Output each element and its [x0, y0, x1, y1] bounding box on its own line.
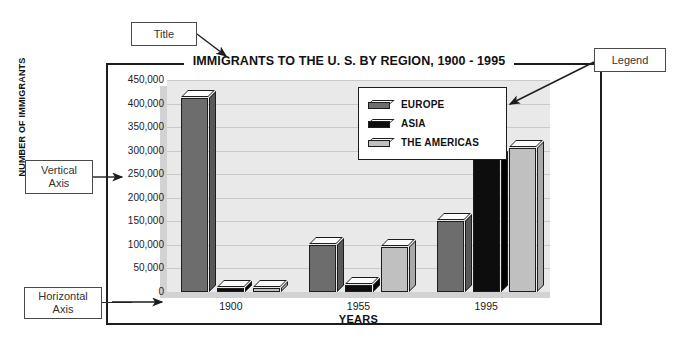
legend-item-the-americas: THE AMERICAS [367, 133, 498, 152]
chart-frame-top-left-rule [106, 63, 184, 65]
bar-the-americas-1900 [253, 288, 280, 292]
legend-label: EUROPE [401, 99, 444, 110]
y-axis-tick-label: 200,000 [110, 192, 164, 203]
bar-side [409, 240, 416, 292]
bar-side [501, 151, 508, 292]
leader-line-horizontal-axis [102, 302, 132, 303]
legend-swatch-icon [368, 119, 392, 128]
x-axis-title: YEARS [167, 313, 550, 325]
bar-the-americas-1995 [509, 148, 536, 292]
y-axis-tick-labels: 450,000400,000350,000300,000250,000200,0… [108, 80, 164, 292]
bar-the-americas-1955 [381, 247, 408, 292]
chart-title: IMMIGRANTS TO THE U. S. BY REGION, 1900 … [184, 54, 514, 68]
x-axis-tick-label: 1995 [474, 300, 497, 312]
bar-side [337, 238, 344, 292]
bar-front [509, 148, 536, 292]
callout-legend: Legend [594, 48, 666, 72]
bar-asia-1995 [473, 158, 500, 292]
legend-item-asia: ASIA [367, 114, 498, 133]
y-axis-tick-label: 300,000 [110, 145, 164, 156]
bar-side [537, 141, 544, 292]
gridline [167, 80, 550, 81]
y-axis-tick-label: 0 [110, 286, 164, 297]
bar-europe-1900 [181, 98, 208, 292]
legend-swatch-icon [368, 100, 392, 109]
bar-side [209, 91, 216, 292]
y-axis-tick-label: 150,000 [110, 215, 164, 226]
x-axis-tick-labels: 190019551995 [167, 300, 550, 314]
callout-horizontal-axis: Horizontal Axis [24, 287, 102, 319]
x-axis-tick-label: 1900 [219, 300, 242, 312]
plot-area-floor [160, 292, 550, 298]
y-axis-tick-label: 50,000 [110, 262, 164, 273]
bar-front [309, 245, 336, 292]
y-axis-tick-label: 350,000 [110, 121, 164, 132]
bar-front [473, 158, 500, 292]
legend-swatch-icon [368, 138, 392, 147]
y-axis-tick-label: 400,000 [110, 98, 164, 109]
bar-europe-1955 [309, 245, 336, 292]
x-axis-tick-label: 1955 [347, 300, 370, 312]
y-axis-tick-label: 100,000 [110, 239, 164, 250]
legend-item-europe: EUROPE [367, 95, 498, 114]
callout-vertical-axis: Vertical Axis [25, 160, 93, 194]
bar-front [345, 285, 372, 292]
legend-label: ASIA [401, 118, 426, 129]
bar-front [381, 247, 408, 292]
bar-side [465, 214, 472, 292]
bar-asia-1955 [345, 285, 372, 292]
chart-legend: EUROPEASIATHE AMERICAS [358, 87, 507, 160]
bar-asia-1900 [217, 288, 244, 292]
bar-front [217, 288, 244, 292]
y-axis-tick-label: 250,000 [110, 168, 164, 179]
bar-europe-1995 [437, 221, 464, 292]
legend-label: THE AMERICAS [401, 137, 479, 148]
arrow-title [197, 34, 226, 56]
bar-front [253, 288, 280, 292]
y-axis-tick-label: 450,000 [110, 74, 164, 85]
bar-front [437, 221, 464, 292]
callout-title: Title [131, 22, 197, 46]
bar-front [181, 98, 208, 292]
chart-frame-top-right-rule [514, 63, 602, 65]
